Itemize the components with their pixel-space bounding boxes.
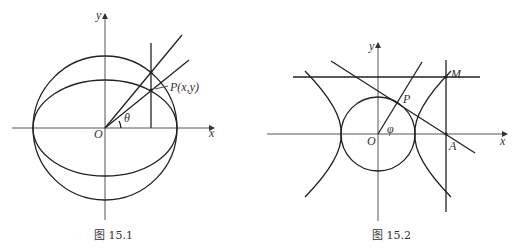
theta-label: θ [124, 111, 130, 125]
y-axis-label: y [95, 8, 102, 22]
point-a [444, 132, 447, 135]
point-p-label: P(x,y) [169, 80, 199, 94]
y-axis-label: y [368, 39, 375, 53]
x-axis-label: x [208, 126, 215, 140]
x-axis-label: x [499, 134, 506, 148]
figure-15-1: y x O θ P(x,y) 图 15.1 [12, 8, 215, 242]
figure-caption: 图 15.2 [372, 229, 411, 242]
origin-label: O [94, 127, 103, 141]
angle-arc-theta [119, 121, 121, 128]
point-p [149, 88, 152, 91]
origin-label: O [367, 134, 376, 148]
figure-caption: 图 15.1 [94, 229, 133, 242]
diagram-canvas: y x O θ P(x,y) 图 15.1 y x O φ P M A 图 15… [0, 0, 517, 250]
point-m [444, 75, 447, 78]
phi-label: φ [387, 122, 394, 136]
point-p-label: P [402, 92, 411, 106]
figure-15-2: y x O φ P M A 图 15.2 [267, 39, 507, 242]
point-m-label: M [450, 67, 462, 81]
point-a-label: A [448, 139, 457, 153]
circle-intersection-point [149, 70, 152, 73]
